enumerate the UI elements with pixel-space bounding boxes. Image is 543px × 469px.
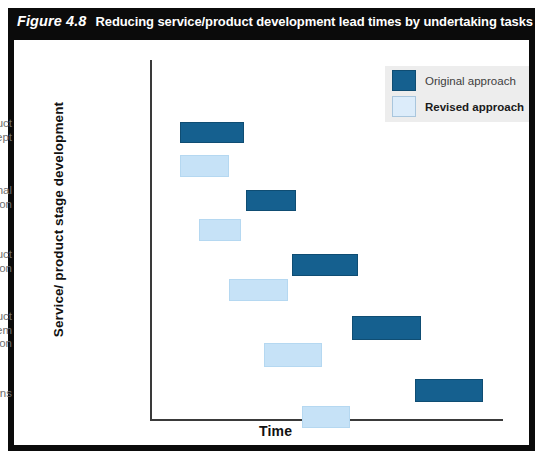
chart-canvas: Service/ product stage development Time … [14,34,529,439]
legend-item-original: Original approach [392,70,516,91]
x-axis-label: Time [259,423,292,439]
bar-revised-1 [180,155,229,177]
y-axis-label: Service/ product stage development [51,80,66,360]
chart-legend: Original approach Revised approach [385,66,529,122]
legend-swatch-original [392,70,416,91]
legend-item-revised: Revised approach [392,96,524,117]
bar-revised-2 [199,219,241,241]
bar-original-1 [180,122,244,143]
legend-label-original: Original approach [425,75,516,87]
category-label-functional-specification: Functional specification [0,184,12,211]
category-label-operations: Operations [0,387,12,401]
bar-original-2 [246,190,296,211]
figure-number: Figure 4.8 [17,13,87,29]
bar-revised-4 [264,343,322,367]
bar-original-4 [352,316,421,340]
figure-title-bar: Figure 4.8 Reducing service/product deve… [8,8,535,34]
legend-swatch-revised [392,96,416,117]
bar-original-3 [292,254,358,276]
bar-original-5 [415,379,483,402]
category-label-delivery-system-specification: Service/product delivery system specific… [0,310,12,351]
bar-revised-5 [302,406,350,428]
category-label-service-product-concept: Service/product concept [0,117,12,144]
figure-title: Reducing service/product development lea… [96,14,536,29]
category-label-service-product-specification: Service/product specification [0,248,12,275]
figure-container: Figure 4.8 Reducing service/product deve… [8,8,535,451]
y-axis-line [150,60,152,421]
bar-revised-3 [229,279,288,301]
legend-label-revised: Revised approach [425,101,524,113]
